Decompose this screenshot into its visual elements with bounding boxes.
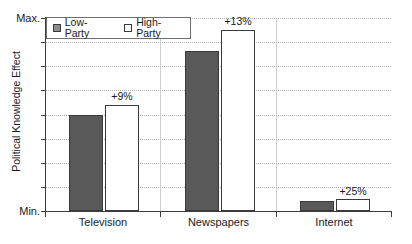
legend-label-low-party: Low-Party (65, 17, 111, 39)
legend-item-high-party[interactable]: High-Party (124, 17, 184, 39)
legend-swatch-icon-low-party (53, 24, 61, 32)
bar-annotation-internet: +25% (334, 186, 372, 197)
y-axis-max-label: Max. (16, 13, 40, 24)
bar-annotation-television: +9% (105, 91, 139, 102)
chart-legend: Low-Party High-Party (46, 17, 191, 39)
bar-newspapers-low-party[interactable] (185, 51, 219, 211)
bar-television-low-party[interactable] (69, 115, 103, 212)
legend-swatch-icon-high-party (124, 24, 132, 32)
x-tick-mark (391, 212, 392, 217)
bar-internet-low-party[interactable] (300, 201, 334, 211)
x-axis-label-newspapers: Newspapers (161, 216, 276, 228)
x-axis-label-television: Television (46, 216, 160, 228)
category-separator (160, 18, 161, 211)
y-axis-min-label: Min. (19, 206, 40, 217)
bar-annotation-newspapers: +13% (218, 16, 258, 27)
legend-label-high-party: High-Party (136, 17, 184, 39)
bar-newspapers-high-party[interactable] (221, 30, 255, 211)
category-separator (276, 18, 277, 211)
bar-television-high-party[interactable] (105, 105, 139, 211)
legend-item-low-party[interactable]: Low-Party (53, 17, 110, 39)
gridline (46, 42, 391, 43)
bar-internet-high-party[interactable] (336, 199, 370, 211)
y-axis-tick-labels: Max. Min. (0, 0, 40, 244)
plot-area: +9% +13% +25% (46, 18, 391, 211)
bar-chart: Political Knowledge Effect Max. Min. (0, 0, 412, 244)
x-axis-line (45, 211, 392, 212)
x-axis-label-internet: Internet (277, 216, 391, 228)
